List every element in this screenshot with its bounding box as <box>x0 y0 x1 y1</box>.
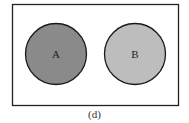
set-a-label: A <box>52 48 60 60</box>
set-b-label: B <box>131 48 138 60</box>
venn-diagram: A B <box>0 0 189 123</box>
figure-caption: (d) <box>0 108 189 120</box>
